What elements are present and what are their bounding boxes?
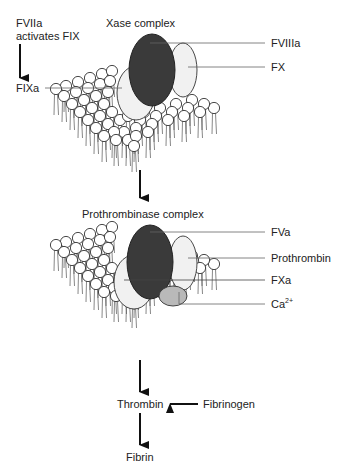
coagulation-diagram: FVIIa activates FIX Xase complex FVIIIa … xyxy=(0,0,345,471)
note-line1: FVIIa xyxy=(16,17,43,29)
label-fibrin: Fibrin xyxy=(126,451,154,463)
label-fixa: FIXa xyxy=(16,82,40,94)
fviia-note: FVIIa activates FIX xyxy=(16,17,80,78)
label-thrombin: Thrombin xyxy=(117,398,163,410)
calcium-ion xyxy=(159,286,187,306)
label-fx: FX xyxy=(271,61,286,73)
label-fviiia: FVIIIa xyxy=(271,37,301,49)
label-fva: FVa xyxy=(271,226,291,238)
prothrombinase-title: Prothrombinase complex xyxy=(82,208,204,220)
label-fibrinogen: Fibrinogen xyxy=(203,398,255,410)
fviiia-protein xyxy=(129,34,175,106)
note-line2: activates FIX xyxy=(16,30,80,42)
label-fxa: FXa xyxy=(271,274,292,286)
prothrombinase-proteins xyxy=(114,225,197,309)
label-prothrombin: Prothrombin xyxy=(271,252,331,264)
label-calcium: Ca2+ xyxy=(271,297,293,310)
xase-title: Xase complex xyxy=(106,17,176,29)
